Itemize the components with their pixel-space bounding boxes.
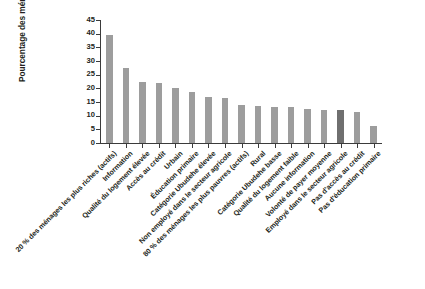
x-axis-tick <box>275 144 276 148</box>
bar <box>222 98 229 143</box>
bar <box>139 82 146 143</box>
bar <box>337 110 344 143</box>
x-axis-tick <box>225 144 226 148</box>
y-axis-tick <box>96 88 100 89</box>
y-axis-tick <box>96 20 100 21</box>
x-axis-tick <box>258 144 259 148</box>
bar <box>255 106 262 143</box>
bar <box>123 68 130 143</box>
bar <box>271 107 278 143</box>
bar <box>205 97 212 143</box>
y-axis-tick-label: 0 <box>91 138 95 148</box>
bar <box>370 126 377 143</box>
x-axis-tick <box>175 144 176 148</box>
y-axis-tick <box>96 61 100 62</box>
x-axis-tick <box>291 144 292 148</box>
y-axis-tick <box>96 116 100 117</box>
x-axis-tick <box>159 144 160 148</box>
x-axis-tick <box>208 144 209 148</box>
bar <box>106 35 113 143</box>
x-axis-tick <box>109 144 110 148</box>
y-axis-tick <box>96 129 100 130</box>
x-axis-tick <box>126 144 127 148</box>
x-axis-tick <box>341 144 342 148</box>
bar <box>354 112 361 143</box>
y-axis-tick <box>96 47 100 48</box>
y-axis-tick <box>96 34 100 35</box>
y-axis-tick-label: 35 <box>87 42 95 52</box>
x-axis-tick <box>242 144 243 148</box>
bar-chart-figure: Pourcentage des ménages 0510152025303540… <box>0 0 425 289</box>
bar <box>304 109 311 143</box>
y-axis-tick <box>96 75 100 76</box>
y-axis-title: Pourcentage des ménages <box>14 0 30 90</box>
y-axis-tick-label: 15 <box>87 97 95 107</box>
y-axis-tick-label: 30 <box>87 56 95 66</box>
y-axis-tick <box>96 143 100 144</box>
bar <box>288 107 295 143</box>
x-axis-tick <box>142 144 143 148</box>
y-axis-tick-label: 25 <box>87 69 95 79</box>
bar <box>156 83 163 143</box>
y-axis-tick-label: 10 <box>87 110 95 120</box>
bar <box>189 92 196 143</box>
y-axis-tick <box>96 102 100 103</box>
x-axis-tick <box>374 144 375 148</box>
x-axis-tick <box>192 144 193 148</box>
y-axis-tick-label: 40 <box>87 28 95 38</box>
bar <box>321 110 328 143</box>
x-axis-tick <box>357 144 358 148</box>
x-axis-tick <box>324 144 325 148</box>
x-axis-tick <box>308 144 309 148</box>
bar <box>238 105 245 143</box>
plot-area <box>101 20 382 143</box>
y-axis-tick-label: 5 <box>91 124 95 134</box>
y-axis-tick-label: 20 <box>87 83 95 93</box>
bar <box>172 88 179 143</box>
y-axis-tick-label: 45 <box>87 15 95 25</box>
